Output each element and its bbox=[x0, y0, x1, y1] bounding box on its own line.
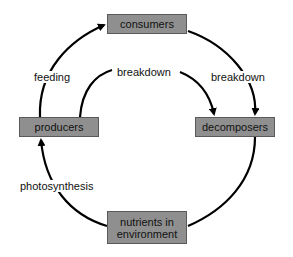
label-breakdown-inner: breakdown bbox=[116, 66, 172, 78]
node-consumers: consumers bbox=[107, 14, 187, 34]
node-producers: producers bbox=[19, 117, 99, 137]
node-nutrients-label-line2: environment bbox=[117, 228, 178, 240]
label-breakdown-outer: breakdown bbox=[210, 71, 266, 83]
node-decomposers-label: decomposers bbox=[202, 121, 268, 133]
node-nutrients-label-line1: nutrients in bbox=[120, 216, 174, 228]
label-feeding: feeding bbox=[33, 71, 71, 83]
node-decomposers: decomposers bbox=[195, 117, 275, 137]
node-consumers-label: consumers bbox=[120, 18, 174, 30]
arrow-decomposers-to-nutrients bbox=[188, 137, 255, 226]
node-nutrients: nutrients in environment bbox=[107, 211, 187, 244]
label-photosynthesis: photosynthesis bbox=[19, 180, 94, 192]
node-producers-label: producers bbox=[35, 121, 84, 133]
